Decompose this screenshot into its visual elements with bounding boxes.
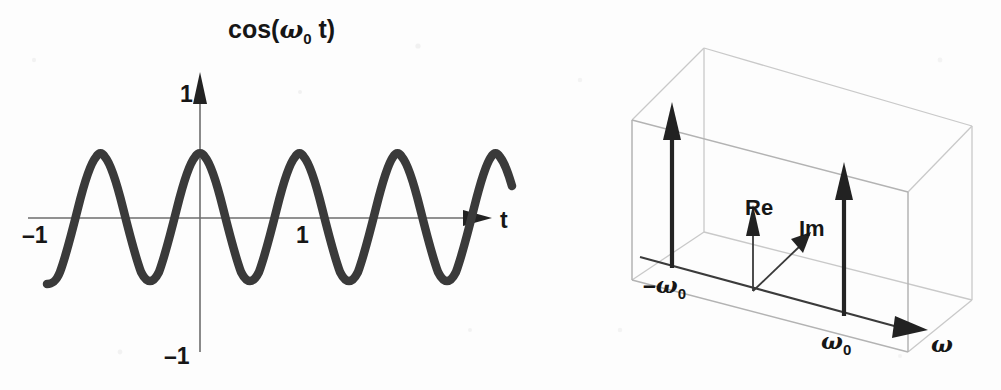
- pos-omega-glyph: ω: [821, 327, 843, 354]
- y-tick-label-one: 1: [180, 81, 193, 107]
- omega-axis-label: ω: [931, 330, 953, 357]
- impulse-negative-omega0: [663, 102, 681, 268]
- impulse-positive-omega0: [835, 162, 853, 316]
- neg-omega-subscript: 0: [678, 285, 686, 302]
- impulse-positive-omega0-label: ω0: [821, 327, 851, 358]
- time-domain-plot: cos(ω0 t) –1 1 1 –1 t: [0, 0, 540, 390]
- time-domain-panel: cos(ω0 t) –1 1 1 –1 t: [0, 0, 540, 390]
- pos-omega-subscript: 0: [843, 341, 851, 358]
- x-tick-label-one: 1: [296, 222, 309, 248]
- omega-axis-arrowhead: [892, 316, 928, 338]
- title-suffix: t): [312, 15, 336, 43]
- y-axis-arrowhead: [193, 72, 207, 104]
- y-tick-label-negative-one: –1: [164, 343, 190, 369]
- spectrum-3d-plot: Re Im –ω0 ω0 ω: [540, 0, 1001, 390]
- plot-title-cos: cos(ω0 t): [228, 15, 335, 47]
- title-omega-glyph: ω: [279, 15, 303, 44]
- impulse-negative-omega0-label: –ω0: [643, 271, 686, 302]
- impulse-negative-omega0-arrowhead: [663, 102, 681, 140]
- neg-omega-sign: –: [643, 272, 656, 298]
- title-prefix: cos(: [228, 15, 280, 43]
- box-back-edges: [632, 48, 972, 352]
- re-axis-label: Re: [745, 195, 773, 220]
- x-tick-label-negative-one: –1: [22, 222, 48, 248]
- t-axis-label: t: [500, 207, 508, 233]
- im-axis-label: Im: [799, 216, 825, 241]
- neg-omega-glyph: ω: [656, 271, 678, 298]
- title-omega-subscript: 0: [303, 30, 311, 47]
- frequency-domain-panel: Re Im –ω0 ω0 ω: [540, 0, 1001, 390]
- y-axis: [193, 72, 207, 352]
- impulse-positive-omega0-arrowhead: [835, 162, 853, 200]
- paper-texture: [32, 43, 472, 354]
- figure-root: cos(ω0 t) –1 1 1 –1 t: [0, 0, 1001, 390]
